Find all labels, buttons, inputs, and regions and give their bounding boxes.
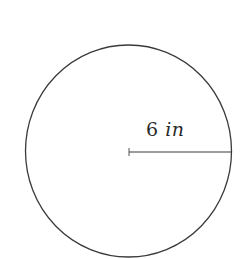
radius-value: 6 xyxy=(146,118,159,140)
radius-unit: in xyxy=(165,118,184,140)
radius-label: 6 in xyxy=(146,118,184,140)
circle-diagram xyxy=(0,0,250,259)
